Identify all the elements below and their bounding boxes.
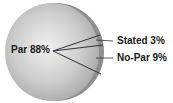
- label-stated: Stated 3%: [117, 36, 165, 46]
- label-par: Par 88%: [11, 45, 50, 55]
- label-nopar: No-Par 9%: [117, 53, 167, 63]
